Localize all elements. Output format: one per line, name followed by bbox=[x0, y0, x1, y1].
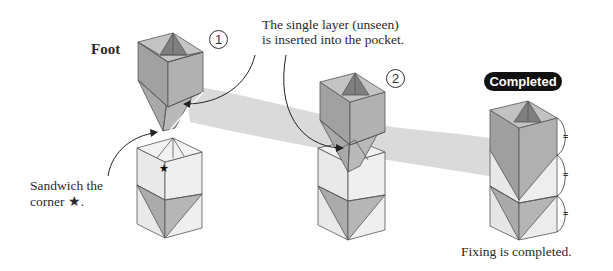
sandwich-instruction: Sandwich the corner ★. bbox=[30, 178, 103, 210]
completed-badge: Completed bbox=[484, 72, 562, 91]
completion-note: Fixing is completed. bbox=[461, 244, 572, 260]
svg-text:=: = bbox=[563, 209, 568, 219]
star-marker: ★ bbox=[159, 162, 169, 174]
part-name-label: Foot bbox=[91, 41, 120, 58]
insert-instruction: The single layer (unseen) is inserted in… bbox=[262, 17, 404, 47]
svg-text:=: = bbox=[563, 170, 568, 180]
step-number-1: 1 bbox=[209, 30, 228, 49]
svg-text:=: = bbox=[563, 132, 568, 142]
figure-1-lower-box bbox=[137, 138, 202, 238]
insert-instruction-line-2: is inserted into the pocket. bbox=[262, 32, 404, 47]
insert-instruction-line-1: The single layer (unseen) bbox=[262, 17, 404, 32]
figure-3-completed-unit bbox=[490, 101, 557, 240]
step-number-2: 2 bbox=[386, 69, 405, 88]
sandwich-instruction-line-2: corner ★. bbox=[30, 194, 103, 210]
origami-diagram: ★ bbox=[0, 0, 613, 271]
sandwich-instruction-line-1: Sandwich the bbox=[30, 178, 103, 194]
